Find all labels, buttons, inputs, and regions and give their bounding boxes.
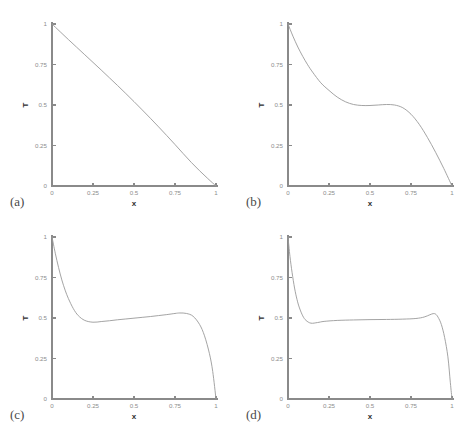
x-axis-title: x: [132, 199, 137, 208]
x-tick-label: 0.75: [169, 189, 182, 196]
panel-label: (c): [10, 407, 24, 422]
figure-four-panel-plots: 00.250.50.75100.250.50.751xT(a) 00.250.5…: [0, 0, 472, 427]
y-tick-label: 0: [44, 395, 48, 402]
x-tick-label: 0: [286, 402, 290, 409]
data-curve: [52, 237, 216, 399]
x-tick-label: 0: [286, 189, 290, 196]
x-tick-label: 0.25: [87, 189, 100, 196]
y-tick-label: 0.75: [271, 274, 284, 281]
x-tick-label: 0.5: [130, 189, 139, 196]
panel-b: 00.250.50.75100.250.50.751xT(b): [236, 0, 472, 214]
x-tick-label: 1: [450, 402, 454, 409]
y-tick-label: 1: [44, 233, 48, 240]
y-tick-label: 0.25: [271, 355, 284, 362]
x-tick-label: 1: [214, 189, 218, 196]
y-axis-title: T: [257, 315, 266, 320]
panel-label: (b): [246, 194, 261, 209]
y-tick-label: 0.75: [35, 61, 48, 68]
x-tick-label: 0.5: [366, 402, 375, 409]
x-tick-label: 1: [214, 402, 218, 409]
y-tick-label: 0.25: [35, 142, 48, 149]
axis-lines: [288, 235, 454, 399]
x-tick-label: 1: [450, 189, 454, 196]
x-tick-label: 0.25: [323, 402, 336, 409]
y-tick-label: 0.25: [271, 142, 284, 149]
x-tick-label: 0.75: [405, 402, 418, 409]
y-tick-label: 0.5: [38, 101, 47, 108]
x-tick-label: 0.75: [169, 402, 182, 409]
y-axis-title: T: [21, 102, 30, 107]
panel-label: (d): [246, 407, 261, 422]
y-tick-label: 0.75: [271, 61, 284, 68]
y-tick-label: 1: [280, 20, 284, 27]
y-tick-label: 0: [280, 182, 284, 189]
y-tick-label: 0.5: [38, 314, 47, 321]
y-tick-label: 0.5: [274, 101, 283, 108]
y-tick-label: 1: [280, 233, 284, 240]
panel-label: (a): [10, 194, 24, 209]
x-tick-label: 0.5: [366, 189, 375, 196]
y-tick-label: 1: [44, 20, 48, 27]
x-tick-label: 0.5: [130, 402, 139, 409]
y-tick-label: 0.25: [35, 355, 48, 362]
data-curve: [288, 237, 452, 399]
axis-lines: [52, 22, 218, 186]
x-axis-title: x: [368, 199, 373, 208]
x-axis-title: x: [368, 412, 373, 421]
data-curve: [288, 24, 452, 186]
axis-lines: [52, 235, 218, 399]
x-tick-label: 0.25: [323, 189, 336, 196]
x-tick-label: 0: [50, 402, 54, 409]
x-tick-label: 0.75: [405, 189, 418, 196]
data-curve: [52, 24, 216, 186]
axis-lines: [288, 22, 454, 186]
y-tick-label: 0.5: [274, 314, 283, 321]
y-axis-title: T: [21, 315, 30, 320]
panel-a: 00.250.50.75100.250.50.751xT(a): [0, 0, 236, 214]
y-tick-label: 0: [44, 182, 48, 189]
y-tick-label: 0.75: [35, 274, 48, 281]
x-tick-label: 0.25: [87, 402, 100, 409]
panel-c: 00.250.50.75100.250.50.751xT(c): [0, 213, 236, 427]
y-axis-title: T: [257, 102, 266, 107]
x-axis-title: x: [132, 412, 137, 421]
x-tick-label: 0: [50, 189, 54, 196]
panel-d: 00.250.50.75100.250.50.751xT(d): [236, 213, 472, 427]
y-tick-label: 0: [280, 395, 284, 402]
